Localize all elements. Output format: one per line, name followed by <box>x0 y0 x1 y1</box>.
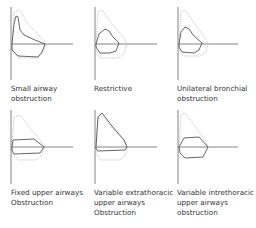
panel-variable-extrathoracic <box>95 110 157 184</box>
caption-restrictive: Restrictive <box>94 84 132 94</box>
caption-line: obstruction <box>177 94 247 104</box>
caption-variable-intrathoracic: Variable intrethoracic upper airways obs… <box>177 188 254 218</box>
caption-variable-extrathoracic: Variable extrathoracic upper airways Obs… <box>94 188 173 218</box>
panel-fixed-upper <box>11 110 73 184</box>
caption-line: Restrictive <box>94 84 132 94</box>
caption-small-airway: Small airway obstruction <box>11 84 57 104</box>
caption-line: Fixed upper airways <box>11 188 83 198</box>
panel-variable-intrathoracic <box>178 110 238 184</box>
panel-unilateral-bronchial <box>178 7 238 80</box>
caption-line: obstruction <box>177 208 254 218</box>
caption-line: Variable intrethoracic <box>177 188 254 198</box>
caption-line: Obstruction <box>11 198 83 208</box>
panel-small-airway <box>11 7 73 80</box>
panel-restrictive <box>95 7 157 80</box>
caption-line: Unilateral bronchial <box>177 84 247 94</box>
caption-line: obstruction <box>11 94 57 104</box>
caption-unilateral-bronchial: Unilateral bronchial obstruction <box>177 84 247 104</box>
caption-fixed-upper: Fixed upper airways Obstruction <box>11 188 83 208</box>
caption-line: Variable extrathoracic <box>94 188 173 198</box>
caption-line: Obstruction <box>94 208 173 218</box>
caption-line: upper airways <box>94 198 173 208</box>
caption-line: upper airways <box>177 198 254 208</box>
caption-line: Small airway <box>11 84 57 94</box>
